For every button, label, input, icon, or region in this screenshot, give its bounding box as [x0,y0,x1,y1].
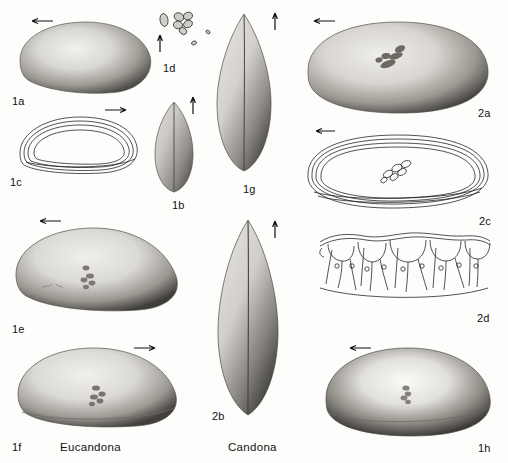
genus-label-candona: Candona [228,441,277,453]
figure-2a [300,16,494,118]
specimen-1e-image [10,222,184,318]
figure-label-1f: 1f [12,441,22,453]
figure-1c [16,113,142,177]
figure-label-1a: 1a [12,95,25,107]
specimen-1a-image [14,16,156,96]
specimen-1c-drawing [16,113,142,177]
orientation-arrow-1b [189,95,197,115]
orientation-arrow-1a [28,17,54,25]
specimen-2c-drawing [302,130,494,214]
orientation-arrow-1c [104,106,130,114]
specimen-1g-image [214,12,274,174]
figure-label-2d: 2d [477,312,490,324]
figure-label-1g: 1g [243,183,256,195]
specimen-1h-image [318,342,496,442]
figure-label-1c: 1c [10,176,22,188]
figure-1h [318,342,496,442]
orientation-arrow-2b [271,219,279,239]
figure-2c [302,130,494,214]
figure-2b [214,218,282,418]
specimen-1f-image [12,342,184,432]
figure-1a [14,16,156,96]
figure-label-1b: 1b [172,199,185,211]
figure-1e [10,222,184,318]
orientation-arrow-1d [156,33,164,53]
figure-label-1d: 1d [163,62,176,74]
orientation-arrow-1h [346,344,372,352]
figure-label-2a: 2a [478,107,491,119]
specimen-2a-image [300,16,494,118]
figure-label-2b: 2b [212,410,225,422]
figure-label-1e: 1e [12,323,25,335]
orientation-arrow-2c [312,127,336,135]
orientation-arrow-1e [36,217,62,225]
genus-label-eucandona: Eucandona [60,441,121,453]
specimen-2b-image [214,218,282,418]
specimen-2d-drawing [318,228,492,306]
orientation-arrow-2a [310,17,336,25]
figure-label-1h: 1h [478,442,491,454]
muscle-scars-2c [380,159,412,184]
orientation-arrow-1g [271,11,279,31]
figure-label-2c: 2c [479,215,491,227]
figure-1f [12,342,184,432]
figure-1g [214,12,274,174]
illustration-plate: 1a 1c [0,0,508,463]
figure-2d [318,228,492,306]
orientation-arrow-1f [133,344,159,352]
